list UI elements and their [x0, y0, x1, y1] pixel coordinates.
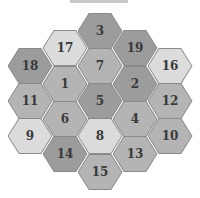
hex-fill: 1: [44, 67, 87, 101]
hex-fill: 3: [79, 14, 122, 48]
hex-fill: 18: [9, 49, 52, 83]
hex-label: 5: [96, 94, 104, 108]
hex-label: 10: [162, 129, 179, 143]
hex-label: 14: [57, 147, 74, 161]
hex-fill: 19: [114, 31, 157, 65]
hex-label: 3: [96, 24, 104, 38]
hex-fill: 15: [79, 155, 122, 189]
hex-fill: 2: [114, 67, 157, 101]
hex-fill: 17: [44, 31, 87, 65]
hex-label: 19: [127, 41, 144, 55]
hex-fill: 4: [114, 102, 157, 136]
hex-fill: 8: [79, 119, 122, 153]
hex-label: 8: [96, 129, 104, 143]
hex-fill: 7: [79, 49, 122, 83]
hex-tile-13: 13: [113, 136, 158, 172]
hex-fill: 5: [79, 84, 122, 118]
hex-fill: 14: [44, 137, 87, 171]
hex-tile-7: 7: [78, 48, 123, 84]
hex-tile-16: 16: [148, 48, 193, 84]
hex-tile-14: 14: [43, 136, 88, 172]
hex-fill: 10: [149, 119, 192, 153]
hex-label: 6: [61, 112, 69, 126]
hex-label: 17: [57, 41, 74, 55]
hex-label: 9: [26, 129, 34, 143]
hex-label: 2: [131, 77, 139, 91]
hex-label: 15: [92, 165, 109, 179]
hex-label: 18: [22, 59, 39, 73]
hex-fill: 11: [9, 84, 52, 118]
hex-fill: 9: [9, 119, 52, 153]
hex-tile-18: 18: [8, 48, 53, 84]
hex-label: 13: [127, 147, 144, 161]
hex-label: 16: [162, 59, 179, 73]
hex-fill: 16: [149, 49, 192, 83]
hex-fill: 13: [114, 137, 157, 171]
hex-label: 1: [61, 77, 69, 91]
hex-label: 4: [131, 112, 139, 126]
hex-fill: 12: [149, 84, 192, 118]
hex-tile-15: 15: [78, 154, 123, 190]
hex-label: 12: [162, 94, 179, 108]
hex-fill: 6: [44, 102, 87, 136]
top-bar-fragment: [70, 0, 128, 3]
hex-label: 11: [22, 94, 39, 108]
hex-label: 7: [96, 59, 104, 73]
